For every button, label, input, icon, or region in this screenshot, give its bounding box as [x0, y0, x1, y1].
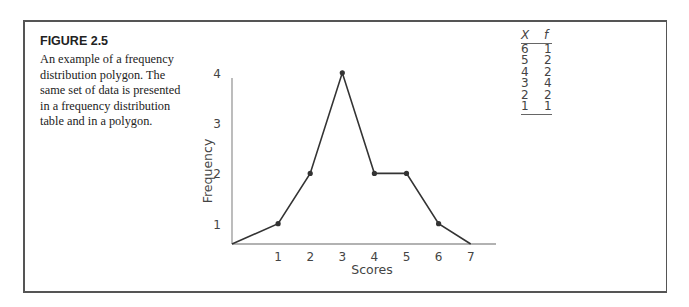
- header-f: f: [544, 30, 548, 42]
- polygon-chart: 1234 1234567 Frequency Scores: [0, 0, 689, 307]
- frequency-table: X f 615242342211: [521, 30, 552, 115]
- cell-x: 1: [521, 101, 544, 113]
- x-tick-label: 2: [306, 250, 314, 264]
- x-axis-label: Scores: [351, 262, 393, 277]
- data-point: [436, 221, 441, 226]
- frequency-polygon: [232, 73, 471, 244]
- data-point: [372, 171, 377, 176]
- x-tick-label: 3: [338, 250, 346, 264]
- x-tick-label: 6: [435, 250, 443, 264]
- table-row: 11: [521, 101, 552, 115]
- x-tick-label: 5: [403, 250, 411, 264]
- header-x: X: [521, 30, 544, 42]
- y-tick-label: 1: [213, 218, 221, 232]
- data-point: [340, 70, 345, 75]
- x-tick-label: 7: [467, 250, 475, 264]
- data-point: [276, 221, 281, 226]
- y-axis-label: Frequency: [200, 138, 215, 203]
- x-tick-label: 1: [274, 250, 282, 264]
- data-point: [308, 171, 313, 176]
- y-tick-label: 3: [213, 117, 221, 131]
- y-tick-label: 4: [213, 67, 221, 81]
- cell-f: 1: [544, 101, 552, 113]
- data-point: [404, 171, 409, 176]
